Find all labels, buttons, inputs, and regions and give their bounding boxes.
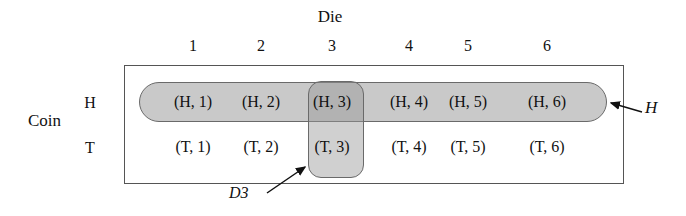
cell-h-1: (H, 1)	[158, 94, 228, 110]
cell-h-5: (H, 5)	[433, 94, 503, 110]
die-axis-title: Die	[0, 8, 686, 25]
column-header-1: 1	[180, 38, 206, 54]
row-header-h: H	[80, 95, 100, 111]
cell-t-6: (T, 6)	[512, 139, 582, 155]
column-header-2: 2	[248, 38, 274, 54]
cell-h-6: (H, 6)	[512, 94, 582, 110]
column-header-5: 5	[455, 38, 481, 54]
event-d3-label: D3	[229, 185, 249, 201]
cell-h-2: (H, 2)	[226, 94, 296, 110]
column-header-3: 3	[319, 38, 345, 54]
cell-t-2: (T, 2)	[226, 139, 296, 155]
event-h-label: H	[645, 99, 657, 116]
cell-t-3: (T, 3)	[297, 139, 367, 155]
cell-h-3: (H, 3)	[297, 94, 367, 110]
coin-axis-title: Coin	[28, 112, 61, 129]
row-header-t: T	[80, 140, 100, 156]
cell-t-1: (T, 1)	[158, 139, 228, 155]
die-axis-title-text: Die	[318, 7, 343, 26]
column-header-6: 6	[534, 38, 560, 54]
cell-t-5: (T, 5)	[433, 139, 503, 155]
sample-space-diagram: Die Coin 1 2 3 4 5 6 H T (H, 1) (H, 2) (…	[0, 0, 686, 216]
column-header-4: 4	[396, 38, 422, 54]
